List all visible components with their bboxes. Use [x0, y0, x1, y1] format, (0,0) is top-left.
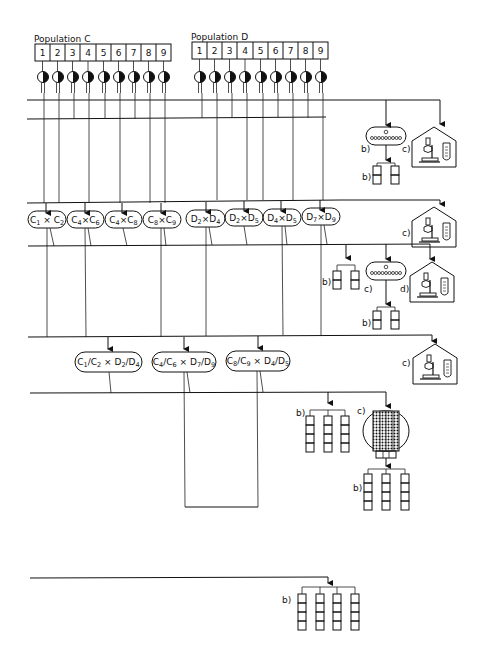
- d-individual-3: 3: [227, 46, 233, 56]
- double-cross-row: C1/C2 × D2/D4 C4/C6 × D7/D9 C8/C9 × D4/D…: [75, 351, 290, 372]
- breeding-scheme-diagram: Population C Population D 1 2 3 4 5 6 7 …: [0, 0, 485, 656]
- d-individual-4: 4: [242, 46, 248, 56]
- d-individual-6: 6: [273, 46, 279, 56]
- d-individual-5: 5: [258, 46, 264, 56]
- c-individual-2: 2: [55, 48, 61, 58]
- step-b-label: b): [282, 595, 291, 605]
- laboratory-microscope-icon: [410, 262, 454, 302]
- step-c-label: c): [357, 406, 365, 416]
- cross-c1-c2: C1 × C2: [30, 215, 64, 227]
- c-individual-7: 7: [131, 48, 137, 58]
- c-individual-3: 3: [70, 48, 76, 58]
- single-cross-row: C1 × C2 C4×C6 C4×C8 C8×C9 D2×D4 D2×D5 D4…: [28, 208, 340, 228]
- d-individual-8: 8: [303, 46, 309, 56]
- population-c-label: Population C: [34, 34, 90, 44]
- d-individual-2: 2: [212, 46, 218, 56]
- step-b-label: b): [362, 172, 371, 182]
- cross-d2-d4: D2×D4: [191, 214, 221, 226]
- population-c-plants: [38, 72, 170, 94]
- d-individual-7: 7: [288, 46, 294, 56]
- cross-c8c9-d4d5: C8/C9 × D4/D5: [227, 356, 289, 368]
- step-b-label: b): [353, 483, 362, 493]
- d-individual-9: 9: [318, 46, 324, 56]
- cross-d7-d9: D7×D9: [306, 212, 336, 224]
- plot-row-icon: [373, 166, 381, 184]
- step-c-label: c): [364, 284, 372, 294]
- cross-c1c2-d2d4: C1/C2 × D2/D4: [77, 357, 139, 369]
- cross-c4c6-d7d9: C4/C6 × D7/D9: [153, 357, 215, 369]
- cross-c4-c8: C4×C8: [109, 215, 137, 227]
- isolation-plot-icon: [366, 127, 406, 145]
- half-filled-circle-plant-icon: [38, 72, 49, 94]
- plot-row-icon: [373, 311, 381, 329]
- cross-d2-d5: D2×D5: [229, 213, 259, 225]
- step-c-label: c): [402, 358, 410, 368]
- step-b-label: b): [361, 144, 370, 154]
- seed-chamber-icon: [363, 411, 409, 458]
- c-individual-4: 4: [85, 48, 91, 58]
- isolation-plot-icon: [366, 262, 406, 280]
- step-c-label: c): [402, 144, 410, 154]
- step-b-label: b): [296, 408, 305, 418]
- plot-row-icon: [306, 416, 314, 452]
- laboratory-microscope-icon: [413, 344, 457, 384]
- population-d-plants: [195, 72, 327, 94]
- step-c-label: c): [402, 228, 410, 238]
- plot-row-icon: [364, 474, 372, 510]
- population-d-box: 1 2 3 4 5 6 7 8 9: [192, 42, 328, 59]
- plot-row-icon: [333, 271, 341, 289]
- cross-c8-c9: C8×C9: [148, 215, 176, 227]
- step-d-label: d): [400, 284, 409, 294]
- crossing-line: [27, 117, 326, 119]
- d-individual-1: 1: [197, 46, 203, 56]
- population-d-label: Population D: [191, 32, 248, 42]
- population-c-box: 1 2 3 4 5 6 7 8 9: [35, 44, 171, 61]
- step-b-label: b): [322, 277, 331, 287]
- step-b-label: b): [362, 318, 371, 328]
- c-individual-1: 1: [40, 48, 46, 58]
- c-individual-5: 5: [101, 48, 107, 58]
- c-individual-8: 8: [146, 48, 152, 58]
- laboratory-microscope-icon: [412, 127, 456, 167]
- c-individual-9: 9: [161, 48, 167, 58]
- cross-c4-c6: C4×C6: [71, 215, 99, 227]
- cross-d4-d5: D4×D5: [267, 213, 297, 225]
- c-individual-6: 6: [116, 48, 122, 58]
- plot-row-icon: [298, 594, 306, 630]
- laboratory-microscope-icon: [412, 207, 456, 247]
